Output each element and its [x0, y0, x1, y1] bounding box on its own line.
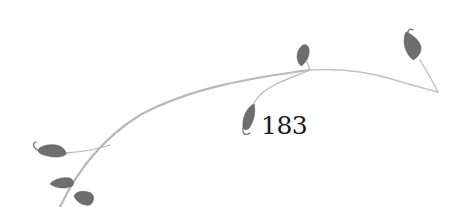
book-page: 183 [0, 0, 449, 207]
vine-ornament-icon [0, 0, 449, 207]
page-number: 183 [261, 113, 307, 138]
